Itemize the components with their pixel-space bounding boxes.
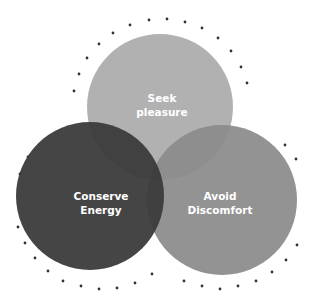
label-discomfort: Discomfort — [188, 204, 253, 216]
label-seek: Seek — [148, 92, 178, 104]
circles — [16, 34, 297, 275]
label-pleasure: pleasure — [136, 106, 187, 118]
label-conserve: Conserve — [74, 190, 129, 202]
venn-diagram: Seek pleasure Conserve Energy Avoid Disc… — [0, 0, 313, 301]
label-energy: Energy — [80, 204, 121, 216]
label-avoid: Avoid — [204, 190, 237, 202]
